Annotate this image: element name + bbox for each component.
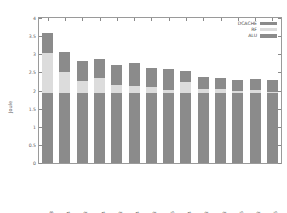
x-tick-mark	[65, 160, 66, 163]
bar-segment-alu	[129, 93, 140, 163]
bar-segment-dcache	[94, 59, 105, 78]
y-tick-mark	[278, 36, 281, 37]
plot-area: DCACHERFALU 00.511.522.533.54	[38, 17, 282, 164]
x-tick-mark	[82, 18, 83, 21]
bar-segment-dcache	[180, 71, 191, 82]
bar-segment-alu	[198, 93, 209, 163]
bar-segment-alu	[94, 93, 105, 163]
x-tick-mark	[186, 18, 187, 21]
x-tick-label: C2.W1.R64	[101, 211, 106, 213]
bar-segment-dcache	[215, 78, 226, 90]
y-tick-label: 3	[33, 52, 36, 57]
bar-segment-alu	[180, 93, 191, 163]
bar-segment-dcache	[42, 33, 53, 54]
x-tick-label: C2.W2.R16	[239, 211, 244, 213]
bar-segment-rf	[94, 78, 105, 94]
x-tick-mark	[221, 160, 222, 163]
x-tick-mark	[186, 160, 187, 163]
y-tick-label: 3.5	[29, 34, 36, 39]
y-tick-mark	[278, 109, 281, 110]
bar-segment-rf	[146, 87, 157, 94]
y-tick-label: 0	[33, 161, 36, 166]
bar-segment-dcache	[129, 63, 140, 86]
y-tick-mark	[278, 72, 281, 73]
bars-container	[39, 18, 281, 163]
x-tick-label: C2.W1.R32	[118, 211, 123, 213]
legend-swatch-rf	[260, 28, 277, 32]
x-tick-label: C1.W1.R128	[49, 211, 54, 213]
x-axis-labels: C1.W1.R128C1.W1.R64C1.W1.R32C2.W1.R64C2.…	[38, 166, 282, 213]
bar-segment-rf	[129, 86, 140, 93]
bar-segment-dcache	[267, 80, 278, 92]
x-tick-label: C1.W4.R32	[256, 211, 261, 213]
x-tick-label: C1.W4.R16	[273, 211, 278, 213]
bar-segment-dcache	[111, 65, 122, 85]
legend-label: RF	[251, 27, 257, 32]
x-tick-mark	[82, 160, 83, 163]
bar-segment-alu	[146, 93, 157, 163]
y-tick-label: 0.5	[29, 142, 36, 147]
bar-segment-rf	[42, 53, 53, 93]
energy-stacked-bar-chart: Joule DCACHERFALU 00.511.522.533.54 C1.W…	[0, 0, 287, 213]
y-tick-label: 4	[33, 16, 36, 21]
bar-segment-dcache	[198, 77, 209, 89]
bar-segment-alu	[42, 93, 53, 163]
y-tick-label: 1	[33, 124, 36, 129]
x-tick-mark	[117, 18, 118, 21]
legend-item-rf: RF	[251, 27, 277, 32]
x-tick-mark	[221, 18, 222, 21]
bar-segment-rf	[77, 81, 88, 93]
x-tick-mark	[100, 160, 101, 163]
y-tick-mark	[39, 109, 42, 110]
legend-swatch-dcache	[260, 22, 277, 26]
y-tick-mark	[278, 145, 281, 146]
x-tick-mark	[255, 160, 256, 163]
x-tick-mark	[48, 160, 49, 163]
y-tick-mark	[39, 163, 42, 164]
x-tick-label: C1.W1.R32	[83, 211, 88, 213]
x-tick-mark	[65, 18, 66, 21]
bar-segment-dcache	[59, 52, 70, 72]
x-tick-mark	[134, 18, 135, 21]
legend-swatch-alu	[260, 34, 277, 38]
x-tick-mark	[272, 160, 273, 163]
y-tick-mark	[39, 54, 42, 55]
legend-item-alu: ALU	[248, 33, 277, 38]
x-tick-mark	[255, 18, 256, 21]
bar-segment-rf	[198, 89, 209, 93]
bar-segment-alu	[267, 93, 278, 163]
bar-segment-dcache	[163, 69, 174, 89]
x-tick-label: C4.W1.R16	[170, 211, 175, 213]
bar-segment-rf	[250, 90, 261, 93]
bar-segment-dcache	[77, 61, 88, 82]
y-tick-label: 2.5	[29, 70, 36, 75]
x-tick-mark	[117, 160, 118, 163]
bar-segment-dcache	[146, 68, 157, 87]
legend-item-dcache: DCACHE	[238, 21, 277, 26]
y-tick-mark	[39, 91, 42, 92]
x-tick-mark	[203, 18, 204, 21]
bar-segment-alu	[232, 93, 243, 163]
bar-segment-rf	[215, 89, 226, 93]
x-tick-mark	[238, 160, 239, 163]
x-tick-mark	[100, 18, 101, 21]
x-tick-label: C1.W2.R64	[187, 211, 192, 213]
x-tick-label: C1.W3.R32	[204, 211, 209, 213]
bar-segment-rf	[232, 91, 243, 93]
x-tick-mark	[238, 18, 239, 21]
x-tick-mark	[203, 160, 204, 163]
y-tick-mark	[39, 36, 42, 37]
y-tick-mark	[278, 91, 281, 92]
legend-label: DCACHE	[238, 21, 257, 26]
bar-segment-rf	[111, 85, 122, 93]
bar-segment-alu	[250, 93, 261, 163]
bar-segment-rf	[163, 90, 174, 94]
y-tick-mark	[278, 163, 281, 164]
y-tick-mark	[39, 145, 42, 146]
bar-segment-alu	[215, 93, 226, 163]
bar-segment-alu	[59, 93, 70, 163]
bar-segment-alu	[77, 93, 88, 163]
bar-segment-dcache	[250, 79, 261, 91]
chart-legend: DCACHERFALU	[238, 21, 277, 38]
y-tick-mark	[39, 127, 42, 128]
